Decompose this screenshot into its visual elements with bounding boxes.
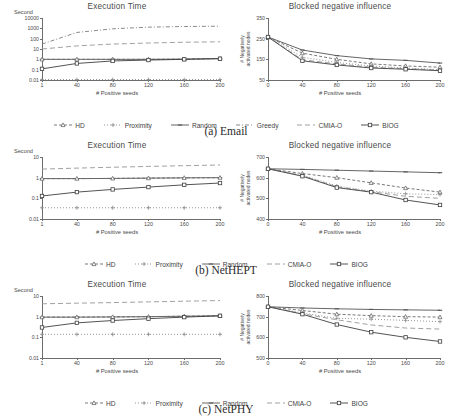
series-layer bbox=[0, 0, 234, 118]
panel-caption: (c) NetPHY bbox=[0, 403, 452, 415]
panel-nethept: Execution TimeSecond0.010.11101408012016… bbox=[0, 139, 452, 278]
series-hd bbox=[266, 35, 442, 69]
series-layer bbox=[228, 278, 452, 396]
chart-b-influence: Blocked negative influence# Negativelyac… bbox=[228, 139, 452, 257]
series-layer bbox=[0, 139, 234, 257]
chart-c-time: Execution TimeSecond0.010.11101408012016… bbox=[0, 278, 234, 396]
chart-c-influence: Blocked negative influence# Negativelyac… bbox=[228, 278, 452, 396]
series-layer bbox=[228, 0, 452, 118]
chart-b-time: Execution TimeSecond0.010.11101408012016… bbox=[0, 139, 234, 257]
series-cmia-o bbox=[42, 301, 220, 304]
panel-email: Execution TimeSecond0.010.11101001000100… bbox=[0, 0, 452, 139]
series-greedy bbox=[42, 26, 220, 44]
series-random bbox=[266, 307, 442, 311]
series-hd bbox=[40, 314, 222, 319]
chart-a-influence: Blocked negative influence# Negativelyac… bbox=[228, 0, 452, 118]
figure-root: Execution TimeSecond0.010.11101001000100… bbox=[0, 0, 452, 417]
series-cmia-o bbox=[42, 42, 220, 49]
panel-caption: (b) NetHEPT bbox=[0, 264, 452, 276]
series-random bbox=[266, 37, 442, 63]
panel-caption: (a) Email bbox=[0, 125, 452, 137]
series-layer bbox=[228, 139, 452, 257]
panel-netphy: Execution TimeSecond0.010.11101408012016… bbox=[0, 278, 452, 417]
chart-a-time: Execution TimeSecond0.010.11101001000100… bbox=[0, 0, 234, 118]
series-cmia-o bbox=[268, 37, 440, 70]
series-proximity bbox=[266, 167, 442, 197]
series-layer bbox=[0, 278, 234, 396]
series-random bbox=[266, 169, 442, 173]
series-proximity bbox=[40, 78, 222, 82]
series-cmia-o bbox=[268, 169, 440, 199]
series-proximity bbox=[40, 206, 222, 210]
series-biog bbox=[40, 181, 221, 197]
series-cmia-o bbox=[42, 165, 220, 169]
series-biog bbox=[266, 35, 441, 72]
series-proximity bbox=[40, 332, 222, 336]
